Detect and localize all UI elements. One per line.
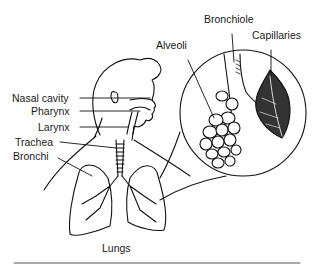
label-bronchiole: Bronchiole xyxy=(204,13,254,25)
bronchi xyxy=(82,176,156,222)
trachea xyxy=(116,140,124,176)
ear xyxy=(111,92,118,103)
label-alveoli: Alveoli xyxy=(156,39,187,51)
alveoli-cluster xyxy=(200,91,241,168)
label-trachea: Trachea xyxy=(15,136,53,148)
label-leaders xyxy=(58,34,271,176)
label-pharynx: Pharynx xyxy=(31,105,70,117)
label-larynx: Larynx xyxy=(38,121,70,133)
label-capillaries: Capillaries xyxy=(252,29,301,41)
label-nasal-cavity: Nasal cavity xyxy=(12,92,69,104)
label-bronchi: Bronchi xyxy=(13,150,49,162)
right-lung xyxy=(127,166,166,231)
capillaries xyxy=(256,70,290,138)
label-lungs: Lungs xyxy=(102,242,131,254)
